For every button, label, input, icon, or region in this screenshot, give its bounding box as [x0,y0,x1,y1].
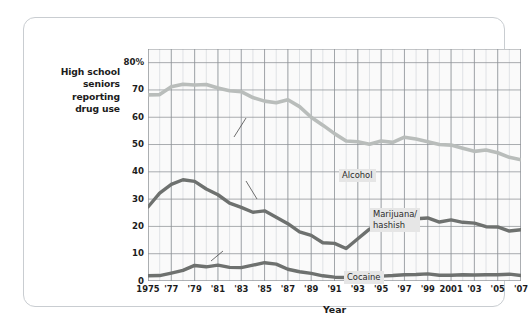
x-axis-tick-1993: '93 [351,284,365,294]
y-axis-tick-30: 30 [110,195,144,204]
x-axis-tick-1987: '87 [281,284,295,294]
annotation-label-cocaine: Cocaine [344,271,384,284]
chart-plot-area: Alcohol Marijuana/ hashish Cocaine [148,49,521,281]
x-axis-tick-1981: '81 [211,284,225,294]
x-axis-tick-1989: '89 [304,284,318,294]
x-axis-tick-1997: '97 [397,284,411,294]
x-axis-tick-2005: '05 [491,284,505,294]
leader-cocaine-line [211,251,223,261]
x-axis-tick-1977: '77 [164,284,178,294]
x-axis-tick-2007: '07 [514,284,528,294]
y-axis-tick-10: 10 [110,249,144,258]
x-axis-tick-labels: 1975'77'79'81'83'85'87'89'91'93'95'97'99… [148,284,521,298]
y-axis-tick-70: 70 [110,85,144,94]
y-axis-tick-50: 50 [110,140,144,149]
y-axis-tick-60: 60 [110,113,144,122]
figure-frame: High school seniors reporting drug use 8… [23,17,505,307]
annotation-label-alcohol: Alcohol [339,169,376,182]
y-axis-tick-20: 20 [110,222,144,231]
x-axis-tick-1991: '91 [327,284,341,294]
x-axis-tick-1999: '99 [421,284,435,294]
x-axis-tick-2003: '03 [467,284,481,294]
line-chart-svg [148,49,521,281]
leader-marijuana-line [246,181,257,199]
x-axis-tick-1985: '85 [257,284,271,294]
x-axis-title: Year [148,304,521,315]
y-axis-tick-labels: 80%706050403020100 [108,49,144,281]
x-axis-tick-1983: '83 [234,284,248,294]
x-axis-tick-1979: '79 [187,284,201,294]
annotation-label-marijuana-line-1: Marijuana/ [373,209,417,220]
leader-alcohol-line [234,118,246,137]
annotation-label-marijuana-line-2: hashish [373,220,417,231]
y-axis-tick-40: 40 [110,167,144,176]
annotation-label-marijuana: Marijuana/ hashish [370,208,420,232]
x-axis-tick-2001: 2001 [439,284,462,294]
x-axis-tick-1975: 1975 [136,284,159,294]
x-axis-tick-1995: '95 [374,284,388,294]
y-axis-tick-80: 80% [110,58,144,67]
